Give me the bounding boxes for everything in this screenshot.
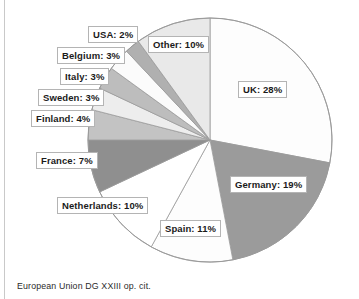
pie-label-italy: Italy: 3% [60,68,109,85]
chart-plot-area: USA: 2%Belgium: 3%Italy: 3%Sweden: 3%Fin… [0,0,359,268]
pie-label-spain: Spain: 11% [160,220,221,237]
pie-label-belgium: Belgium: 3% [57,47,125,64]
pie-chart-figure: USA: 2%Belgium: 3%Italy: 3%Sweden: 3%Fin… [0,0,359,299]
pie-label-finland: Finland: 4% [31,110,95,127]
figure-caption: European Union DG XXIII op. cit. [17,281,151,291]
pie-label-netherlands: Netherlands: 10% [57,197,148,214]
pie-label-sweden: Sweden: 3% [38,89,104,106]
pie-label-uk: UK: 28% [238,81,287,98]
pie-label-germany: Germany: 19% [230,176,307,193]
pie-label-usa: USA: 2% [88,26,138,43]
pie-label-france: France: 7% [36,152,98,169]
pie-label-other: Other: 10% [148,36,209,53]
